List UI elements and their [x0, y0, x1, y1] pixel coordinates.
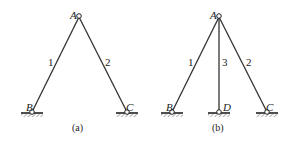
caption-a: (a) — [72, 122, 83, 134]
label-c: C — [266, 101, 274, 113]
label-b: B — [26, 101, 33, 113]
caption-b: (b) — [212, 122, 224, 134]
joint-a — [217, 14, 222, 19]
label-a: A — [209, 9, 217, 21]
bar-1 — [172, 17, 219, 112]
truss-diagram: A B C 1 2 (a) A B D C 1 3 2 — [0, 0, 293, 142]
bar-label-1: 1 — [48, 56, 54, 68]
bar-label-3: 3 — [222, 56, 228, 68]
figure-b: A B D C 1 3 2 (b) — [161, 9, 278, 134]
bar-label-2: 2 — [246, 56, 252, 68]
bar-label-1: 1 — [188, 56, 194, 68]
label-d: D — [222, 101, 231, 113]
label-b: B — [166, 101, 173, 113]
bar-2 — [79, 17, 127, 112]
bar-1 — [32, 17, 79, 112]
bar-label-2: 2 — [105, 56, 111, 68]
joint-a — [77, 14, 82, 19]
figure-a: A B C 1 2 (a) — [21, 9, 138, 134]
label-a: A — [69, 9, 77, 21]
label-c: C — [126, 101, 134, 113]
